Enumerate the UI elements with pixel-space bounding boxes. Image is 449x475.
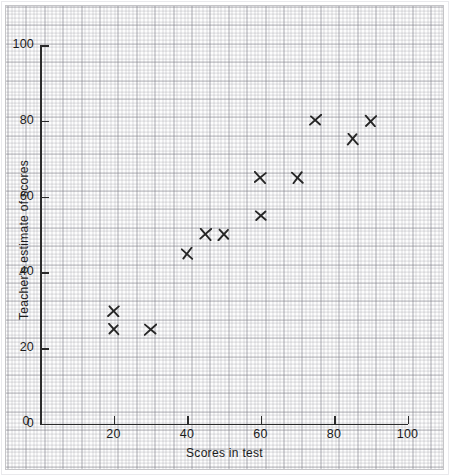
x-tick-100 xyxy=(408,416,410,424)
y-tick-label-80: 80 xyxy=(0,113,34,127)
x-tick-label-0: 0 xyxy=(6,414,46,428)
y-tick-40 xyxy=(41,272,49,274)
data-point-marker xyxy=(364,114,377,127)
data-point-marker xyxy=(217,228,230,241)
y-tick-label-100: 100 xyxy=(0,37,34,51)
data-point-marker xyxy=(254,209,267,222)
y-tick-60 xyxy=(41,197,49,199)
x-tick-label-80: 80 xyxy=(314,427,354,441)
x-tick-label-40: 40 xyxy=(167,427,207,441)
data-point-marker xyxy=(346,133,359,146)
scatter-plot-screenshot: 020406080100 020406080100 Scores in test… xyxy=(0,0,449,475)
y-tick-100 xyxy=(41,45,49,47)
x-tick-label-60: 60 xyxy=(241,427,281,441)
data-point-marker xyxy=(107,304,120,317)
x-tick-40 xyxy=(187,416,189,424)
plot-area: 020406080100 020406080100 Scores in test… xyxy=(0,0,449,475)
data-point-marker xyxy=(309,114,322,127)
x-tick-60 xyxy=(261,416,263,424)
data-point-marker xyxy=(199,228,212,241)
x-tick-label-100: 100 xyxy=(388,427,428,441)
data-point-marker xyxy=(254,171,267,184)
y-axis-title: Teacher's estimate of scores xyxy=(17,130,31,350)
x-tick-80 xyxy=(334,416,336,424)
data-point-marker xyxy=(181,247,194,260)
x-axis-title: Scores in test xyxy=(0,446,449,460)
data-point-marker xyxy=(144,323,157,336)
y-tick-20 xyxy=(41,348,49,350)
y-axis-line xyxy=(40,45,42,425)
data-point-marker xyxy=(291,171,304,184)
y-tick-80 xyxy=(41,121,49,123)
x-axis-line xyxy=(40,424,408,426)
x-tick-20 xyxy=(114,416,116,424)
x-tick-label-20: 20 xyxy=(94,427,134,441)
data-point-marker xyxy=(107,323,120,336)
